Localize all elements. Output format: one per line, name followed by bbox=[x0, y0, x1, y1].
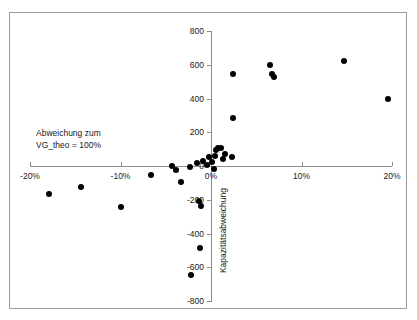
data-point bbox=[267, 62, 273, 68]
data-point bbox=[220, 156, 226, 162]
data-point bbox=[212, 153, 218, 159]
data-point bbox=[197, 245, 203, 251]
y-axis-tick-label: 600 bbox=[180, 61, 204, 70]
y-axis-tick bbox=[207, 99, 211, 100]
y-axis-tick bbox=[207, 31, 211, 32]
y-axis-tick bbox=[207, 267, 211, 268]
y-axis-tick bbox=[207, 234, 211, 235]
data-point bbox=[188, 272, 194, 278]
data-point bbox=[118, 204, 124, 210]
y-axis-tick-label: -800 bbox=[180, 297, 204, 306]
data-point bbox=[229, 154, 235, 160]
y-axis-tick bbox=[207, 200, 211, 201]
x-axis-tick bbox=[121, 162, 122, 166]
data-point bbox=[211, 166, 217, 172]
data-point bbox=[198, 203, 204, 209]
data-point bbox=[230, 115, 236, 121]
data-point bbox=[222, 151, 228, 157]
annotation-line-1: Abweichung zum bbox=[36, 127, 101, 139]
data-point bbox=[230, 71, 236, 77]
annotation-line-2: VG_theo = 100% bbox=[36, 139, 101, 151]
x-axis-tick bbox=[302, 162, 303, 166]
data-point bbox=[46, 191, 52, 197]
y-axis-tick-label: 800 bbox=[180, 27, 204, 36]
x-axis-tick-label: -10% bbox=[111, 172, 131, 181]
y-axis-tick bbox=[207, 65, 211, 66]
y-axis-tick bbox=[207, 132, 211, 133]
x-axis-tick bbox=[30, 162, 31, 166]
data-point bbox=[271, 74, 277, 80]
data-point bbox=[385, 96, 391, 102]
x-axis-tick bbox=[392, 162, 393, 166]
data-point bbox=[341, 58, 347, 64]
data-point bbox=[178, 179, 184, 185]
data-point bbox=[209, 159, 215, 165]
x-axis-tick-label: 10% bbox=[293, 172, 310, 181]
data-point bbox=[173, 167, 179, 173]
data-point bbox=[78, 184, 84, 190]
y-axis-tick-label: 200 bbox=[180, 128, 204, 137]
x-axis-tick-label: 20% bbox=[383, 172, 400, 181]
data-point bbox=[148, 172, 154, 178]
y-axis-tick-label: 400 bbox=[180, 94, 204, 103]
y-axis-tick bbox=[207, 301, 211, 302]
data-point bbox=[187, 164, 193, 170]
plot-area: -20%-10%0%10%20%-800-600-400-20002004006… bbox=[0, 0, 417, 320]
y-axis-tick-label: -400 bbox=[180, 229, 204, 238]
scatter-chart: -20%-10%0%10%20%-800-600-400-20002004006… bbox=[0, 0, 417, 320]
x-axis-tick-label: 0% bbox=[205, 172, 217, 181]
x-axis-tick-label: -20% bbox=[20, 172, 40, 181]
y-axis-tick-label: -600 bbox=[180, 263, 204, 272]
y-axis-label: Kapazitätsabweichung bbox=[218, 188, 228, 273]
chart-annotation: Abweichung zum VG_theo = 100% bbox=[36, 127, 101, 152]
